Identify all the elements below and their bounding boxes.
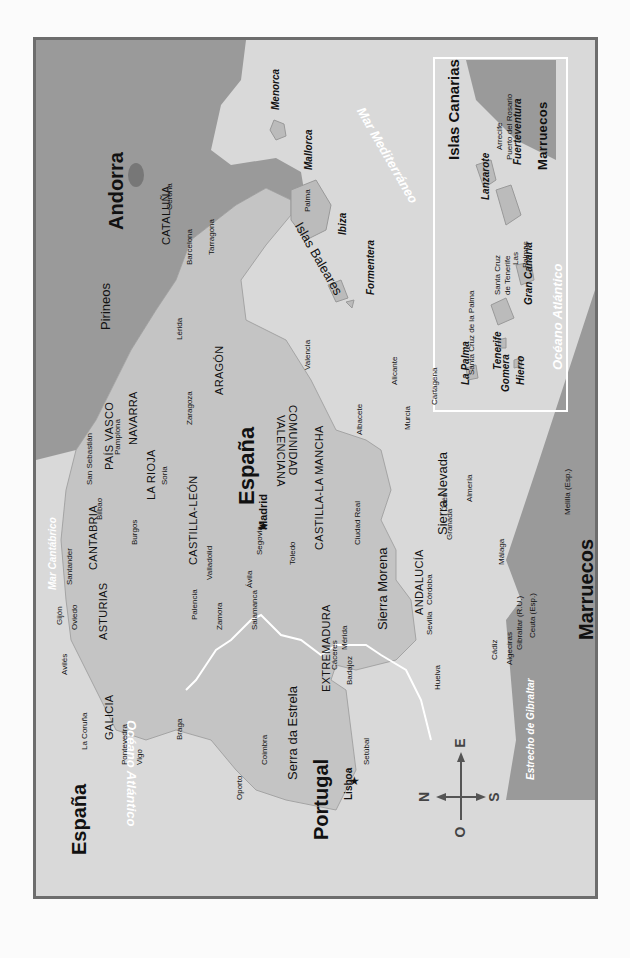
menorca-shape (270, 120, 286, 140)
label-pamplona: Pamplona (114, 419, 122, 455)
formentera-shape (346, 300, 354, 308)
label-tarragona: Tarragona (208, 219, 216, 255)
label-alicante: Alicante (391, 357, 399, 385)
label-cartagena: Cartagena (431, 368, 439, 405)
label-galicia: GALICIA (104, 694, 115, 740)
label-palma: Palma (304, 189, 312, 212)
label-zaragoza: Zaragoza (186, 391, 194, 425)
label-lerida: Lérida (176, 318, 184, 340)
label-sevilla: Sevilla (426, 611, 434, 635)
lisboa-star-icon: ★ (349, 775, 360, 787)
label-islas-canarias: Islas Canarias (446, 59, 461, 160)
label-mar-cantabrico: Mar Cantábrico (48, 517, 58, 590)
label-gibraltar: Gibraltar (R.U.) (516, 596, 524, 650)
label-coimbra: Coimbra (261, 735, 269, 765)
label-santa-cruz-tenerife-1: Santa Cruz (494, 255, 502, 295)
label-gomera: Gomera (501, 354, 511, 392)
label-burgos: Burgos (131, 520, 139, 545)
label-espana-corner: España (69, 784, 89, 855)
label-vigo: Vigo (136, 749, 144, 765)
label-merida: Mérida (341, 626, 349, 650)
label-melilla: Melilla (Esp.) (564, 469, 572, 515)
label-andorra: Andorra (106, 152, 126, 230)
label-albacete: Albacete (356, 404, 364, 435)
label-gerona: Gerona (166, 183, 174, 210)
label-valenciana: VALENCIANA (275, 415, 286, 487)
label-la-coruna: La Coruña (81, 713, 89, 750)
compass-rose: E N S O (431, 740, 491, 830)
label-zamora: Zamora (216, 602, 224, 630)
label-ibiza: Ibiza (338, 213, 348, 235)
label-valladolid: Valladolid (206, 546, 214, 580)
label-santander: Santander (66, 548, 74, 585)
label-ceuta: Ceuta (Esp.) (529, 593, 537, 638)
label-cadiz: Cádiz (491, 640, 499, 660)
label-gijon: Gijón (56, 606, 64, 625)
label-marruecos: Marruecos (576, 539, 596, 640)
label-murcia: Murcia (404, 406, 412, 430)
compass-north: N (416, 792, 432, 802)
label-san-sebastian: San Sebastián (86, 433, 94, 485)
compass-south: S (486, 792, 502, 801)
label-segovia: Segovia (256, 526, 264, 555)
label-granada: Granada (446, 509, 454, 540)
label-asturias: ASTURIAS (98, 583, 109, 640)
label-puerto-rosario: Puerto del Rosario (506, 94, 514, 160)
label-comunidad: COMUNIDAD (287, 405, 298, 476)
label-badajoz: Badajoz (346, 656, 354, 685)
label-pirineos: Pirineos (99, 283, 112, 330)
label-caceres: Cáceres (331, 640, 339, 670)
label-marruecos-inset: Marruecos (536, 102, 549, 170)
label-arrecife: Arrecife (496, 122, 504, 150)
label-estrecho-gibraltar: Estrecho de Gibraltar (526, 678, 536, 780)
label-mallorca: Mallorca (304, 129, 314, 170)
label-aragon: ARAGÓN (214, 346, 225, 395)
andorra-shape (128, 163, 144, 187)
compass-arrows-icon (431, 740, 491, 830)
label-almeria: Almería (466, 474, 474, 502)
label-barcelona: Barcelona (186, 229, 194, 265)
label-fuerteventura: Fuerteventura (513, 98, 523, 165)
label-espana-main: España (236, 427, 258, 505)
label-algeciras: Algeciras (506, 632, 514, 665)
label-menorca: Menorca (271, 69, 281, 110)
label-santa-cruz-palma: Santa Cruz de la Palma (468, 291, 476, 376)
label-hierro: Hierro (516, 356, 526, 385)
label-huelva: Huelva (434, 665, 442, 690)
label-salamanca: Salamanca (251, 590, 259, 630)
label-castilla-mancha: CASTILLA-LA MANCHA (314, 425, 325, 550)
label-oceano-atlantico-inset: Océano Atlántico (551, 264, 564, 370)
label-valencia: Valencia (304, 340, 312, 370)
label-lanzarote: Lanzarote (481, 153, 491, 200)
label-andalucia: ANDALUCÍA (414, 549, 425, 615)
compass-east: E (452, 738, 468, 747)
label-ciudad-real: Ciudad Real (354, 501, 362, 545)
label-braga: Braga (176, 719, 184, 740)
label-malaga: Málaga (498, 539, 506, 565)
label-castilla-leon: CASTILLA-LEÓN (188, 476, 199, 565)
map-frame: Andorra España España Portugal Marruecos… (33, 37, 598, 899)
label-sierra-morena: Sierra Morena (376, 548, 389, 630)
label-pontevedra: Pontevedra (121, 724, 129, 765)
label-las-palmas-1: Las (512, 252, 520, 265)
label-cordoba: Córdoba (426, 574, 434, 605)
label-jaen: Jaén (441, 493, 449, 510)
label-portugal: Portugal (311, 759, 331, 840)
label-bilbao: Bilbao (96, 498, 104, 520)
label-soria: Soria (161, 466, 169, 485)
label-aviles: Avilés (61, 654, 69, 675)
label-la-rioja: LA RIOJA (146, 449, 157, 500)
label-formentera: Formentera (366, 240, 376, 295)
label-navarra: NAVARRA (128, 391, 139, 445)
label-las-palmas-2: Palmas (522, 241, 530, 268)
label-santa-cruz-tenerife-2: de Tenerife (504, 256, 512, 295)
compass-west: O (452, 827, 468, 838)
label-oporto: Oporto (236, 776, 244, 800)
label-setubal: Setúbal (363, 738, 371, 765)
label-oviedo: Oviedo (71, 605, 79, 630)
label-toledo: Toledo (289, 541, 297, 565)
label-serra-estrela: Serra da Estrela (286, 686, 299, 780)
label-avila: Ávila (246, 571, 254, 588)
label-palencia: Palencia (191, 589, 199, 620)
